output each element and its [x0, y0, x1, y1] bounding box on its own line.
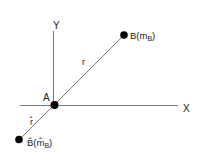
point-b-hat-label-main: B̂(m̂ — [27, 137, 45, 148]
point-b-hat-label-close: ) — [49, 137, 52, 148]
r-segment — [54, 35, 124, 105]
r-hat-label: r̂ — [29, 116, 33, 127]
r-label: r — [82, 57, 85, 67]
point-b — [120, 31, 128, 39]
r-hat-segment — [19, 105, 54, 140]
coordinate-diagram: Y X A r r̂ B(mB) B̂(m̂B) — [0, 0, 200, 161]
point-b-label: B(mB) — [130, 30, 155, 42]
point-b-label-close: ) — [152, 30, 155, 41]
point-b-hat — [15, 136, 23, 144]
y-axis-label: Y — [53, 20, 60, 31]
point-a — [51, 101, 59, 109]
point-b-hat-label: B̂(m̂B) — [27, 137, 52, 149]
point-b-label-main: B(m — [130, 30, 148, 41]
x-axis-label: X — [183, 103, 190, 114]
point-a-label: A — [43, 92, 50, 103]
